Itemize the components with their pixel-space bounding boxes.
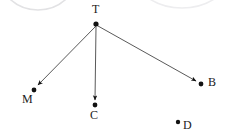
faint-arc-group	[0, 0, 229, 10]
arc-top-right-icon	[130, 0, 229, 8]
point-label-M: M	[22, 93, 33, 105]
point-label-B: B	[208, 76, 216, 88]
point-label-C: C	[90, 109, 98, 121]
figure-canvas: T M C B D	[0, 0, 229, 139]
point-dot-C	[93, 103, 98, 108]
arrow-t-to-b	[98, 26, 196, 81]
point-dot-B	[199, 82, 204, 87]
arrow-group	[38, 26, 196, 100]
point-dot-T	[93, 21, 98, 26]
diagram-svg	[0, 0, 229, 139]
point-label-D: D	[183, 119, 192, 131]
arrow-t-to-c	[95, 27, 96, 100]
point-label-T: T	[92, 3, 99, 15]
point-dot-D	[176, 120, 180, 124]
arrow-t-to-m	[38, 26, 96, 85]
arc-top-left-icon	[0, 0, 78, 10]
